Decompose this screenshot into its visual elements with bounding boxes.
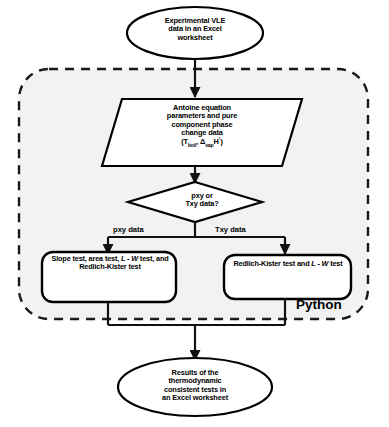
flowchart-canvas: Experimental VLE data in an Excel worksh… (0, 0, 389, 427)
input-data-shape (102, 99, 302, 166)
process-node-pxy-shape (42, 252, 176, 302)
start-terminator-shape (127, 7, 263, 59)
end-terminator-shape (118, 358, 272, 416)
process-node-txy-shape (224, 255, 351, 299)
flowchart-graphics (0, 0, 389, 427)
